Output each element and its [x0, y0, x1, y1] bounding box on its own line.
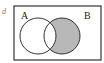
set-label-b: B: [84, 10, 91, 21]
set-label-a: A: [21, 10, 29, 21]
venn-diagram: d A B: [0, 0, 104, 63]
diagram-index-label: d: [2, 7, 7, 16]
